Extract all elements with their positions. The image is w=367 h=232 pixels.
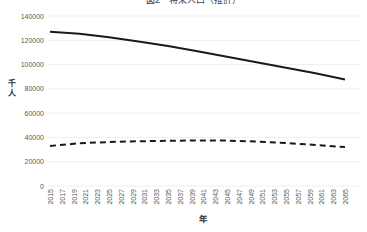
y-tick-label: 60000	[25, 110, 45, 117]
series-line-dashed	[50, 141, 345, 148]
x-tick-label: 2051	[259, 189, 266, 205]
x-tick-label: 2049	[248, 189, 255, 205]
x-tick-label: 2017	[59, 189, 66, 205]
y-tick-label: 20000	[25, 158, 45, 165]
x-tick-label: 2065	[342, 189, 349, 205]
x-tick-label: 2035	[165, 189, 172, 205]
x-tick-label: 2059	[307, 189, 314, 205]
x-tick-label: 2025	[106, 189, 113, 205]
x-tick-label: 2045	[224, 189, 231, 205]
x-tick-label: 2015	[47, 189, 54, 205]
x-tick-label: 2043	[212, 189, 219, 205]
y-tick-label: 120000	[21, 37, 44, 44]
x-tick-label: 2061	[318, 189, 325, 205]
line-chart: 0200004000060000800001000001200001400002…	[0, 0, 367, 232]
y-tick-label: 40000	[25, 134, 45, 141]
x-axis-title: 年	[199, 212, 208, 224]
x-tick-label: 2055	[283, 189, 290, 205]
series-line-solid	[50, 32, 345, 80]
x-tick-label: 2033	[153, 189, 160, 205]
y-tick-label: 0	[40, 183, 44, 190]
x-tick-label: 2027	[118, 189, 125, 205]
x-tick-label: 2057	[295, 189, 302, 205]
x-tick-label: 2037	[177, 189, 184, 205]
x-tick-label: 2053	[271, 189, 278, 205]
x-tick-label: 2023	[94, 189, 101, 205]
y-tick-label: 100000	[21, 61, 44, 68]
x-tick-label: 2021	[82, 189, 89, 205]
x-tick-label: 2019	[71, 189, 78, 205]
x-tick-label: 2041	[200, 189, 207, 205]
x-tick-label: 2031	[141, 189, 148, 205]
x-tick-label: 2029	[130, 189, 137, 205]
y-tick-label: 80000	[25, 85, 45, 92]
x-tick-label: 2063	[330, 189, 337, 205]
x-tick-label: 2039	[189, 189, 196, 205]
y-tick-label: 140000	[21, 13, 44, 20]
x-tick-label: 2047	[236, 189, 243, 205]
